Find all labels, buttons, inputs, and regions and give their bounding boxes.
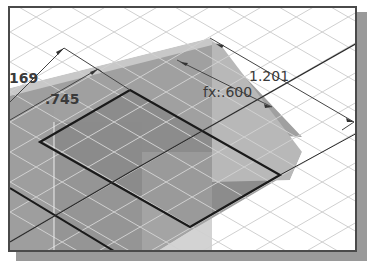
cad-viewport[interactable]: 169 .745 fx:.600 1.201 — [0, 0, 379, 265]
dimension-label-745[interactable]: .745 — [45, 92, 80, 106]
dimension-label-600[interactable]: fx:.600 — [203, 85, 252, 99]
frame-shadow-right — [357, 12, 367, 260]
graphics-window[interactable] — [8, 6, 357, 252]
sketch-canvas[interactable] — [10, 8, 357, 252]
frame-shadow-bottom — [16, 252, 367, 261]
dimension-label-169[interactable]: 169 — [9, 71, 38, 85]
dimension-label-1201[interactable]: 1.201 — [249, 69, 289, 83]
